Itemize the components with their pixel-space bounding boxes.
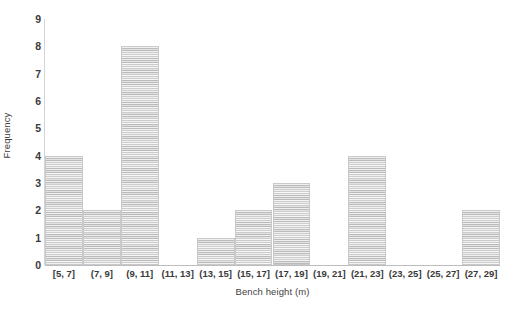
bar	[197, 238, 235, 265]
y-axis-tick-labels: 0123456789	[0, 0, 41, 312]
x-tick-label: [5, 7]	[45, 268, 83, 279]
y-tick-label: 5	[5, 122, 41, 134]
bar	[462, 210, 500, 265]
y-tick-label: 7	[5, 68, 41, 80]
bar-series	[45, 19, 500, 265]
bar	[45, 156, 83, 265]
x-axis-tick-labels: [5, 7](7, 9](9, 11](11, 13](13, 15](15, …	[45, 268, 500, 286]
bar	[235, 210, 273, 265]
bar	[273, 183, 311, 265]
y-tick-label: 3	[5, 177, 41, 189]
bar	[121, 46, 159, 265]
x-tick-label: (15, 17]	[235, 268, 273, 279]
y-tick-label: 4	[5, 150, 41, 162]
x-tick-label: (21, 23]	[348, 268, 386, 279]
x-tick-label: (27, 29]	[462, 268, 500, 279]
x-tick-label: (9, 11]	[121, 268, 159, 279]
x-axis-line	[45, 265, 500, 266]
x-tick-label: (23, 25]	[386, 268, 424, 279]
y-tick-label: 9	[5, 13, 41, 25]
y-tick-label: 6	[5, 95, 41, 107]
x-tick-label: (7, 9]	[83, 268, 121, 279]
x-tick-label: (13, 15]	[197, 268, 235, 279]
cropped-caption	[0, 303, 512, 312]
histogram-chart: Frequency 0123456789 [5, 7](7, 9](9, 11]…	[0, 0, 512, 312]
y-tick-label: 2	[5, 204, 41, 216]
bar	[83, 210, 121, 265]
y-tick-label: 0	[5, 259, 41, 271]
x-axis-title: Bench height (m)	[45, 286, 500, 297]
y-tick-label: 1	[5, 232, 41, 244]
y-tick-label: 8	[5, 40, 41, 52]
x-tick-label: (11, 13]	[159, 268, 197, 279]
bar	[348, 156, 386, 265]
x-tick-label: (25, 27]	[424, 268, 462, 279]
x-tick-label: (17, 19]	[273, 268, 311, 279]
x-tick-label: (19, 21]	[310, 268, 348, 279]
